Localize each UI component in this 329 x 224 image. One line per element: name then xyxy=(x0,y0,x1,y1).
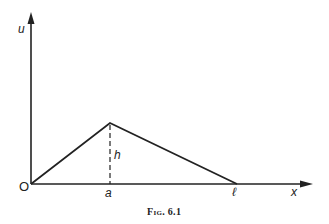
y-axis-arrow-icon xyxy=(28,12,35,24)
end-label: ℓ xyxy=(232,186,236,198)
peak-x-label: a xyxy=(105,187,112,199)
y-axis-label: u xyxy=(18,23,25,35)
triangle-profile-diagram xyxy=(0,0,329,224)
triangle-profile-line xyxy=(31,123,237,184)
height-label: h xyxy=(114,149,121,161)
x-axis-arrow-icon xyxy=(300,181,313,188)
origin-label: O xyxy=(19,180,29,193)
figure-caption: Fig. 6.1 xyxy=(147,207,181,217)
x-axis-label: x xyxy=(291,186,297,198)
